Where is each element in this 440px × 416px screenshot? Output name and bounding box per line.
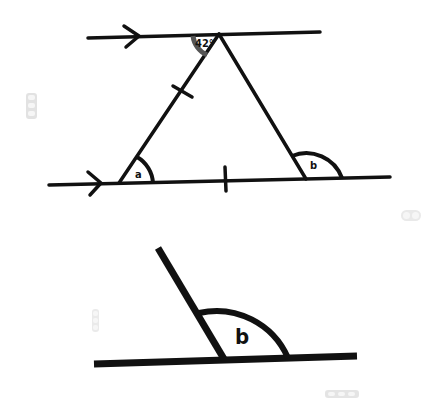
zoom-in-icon[interactable] <box>412 212 419 219</box>
toolbar-button-1[interactable] <box>28 95 35 100</box>
angle-b-label: b <box>310 159 317 172</box>
equal-tick-base <box>225 167 226 191</box>
toolbar-button-z[interactable] <box>348 392 355 396</box>
toolbar-button-y[interactable] <box>338 392 345 396</box>
right-zoom-control[interactable] <box>401 210 421 221</box>
geometry-diagram: 42° a b b <box>0 0 440 416</box>
zoom-out-icon[interactable] <box>403 212 410 219</box>
toolbar-button-a[interactable] <box>93 311 98 316</box>
toolbar-button-c[interactable] <box>93 325 98 330</box>
toolbar-button-2[interactable] <box>28 103 35 108</box>
bottom-right-toolbar[interactable] <box>325 390 359 398</box>
toolbar-button-3[interactable] <box>28 111 35 116</box>
lower-slanted-line <box>158 248 224 359</box>
left-toolbar-bottom[interactable] <box>92 309 99 332</box>
triangle-left-side <box>119 34 219 183</box>
angle-42-label: 42° <box>195 37 214 50</box>
toolbar-button-b[interactable] <box>93 318 98 323</box>
angle-a-label: a <box>135 168 142 181</box>
toolbar-button-x[interactable] <box>328 392 335 396</box>
left-toolbar-top[interactable] <box>26 93 37 119</box>
lower-angle-b-label: b <box>235 324 249 349</box>
